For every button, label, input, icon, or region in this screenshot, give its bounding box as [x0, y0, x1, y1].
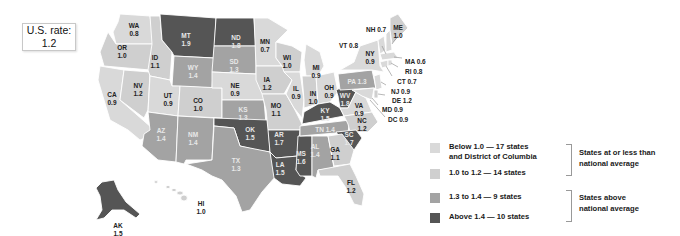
svg-text:MD 0.9: MD 0.9	[382, 106, 403, 113]
svg-text:WV1.8: WV1.8	[340, 92, 351, 107]
svg-text:MS1.6: MS1.6	[296, 150, 306, 165]
svg-text:KS1.3: KS1.3	[238, 106, 248, 121]
state-ma[interactable]	[380, 52, 398, 60]
svg-text:TX1.3: TX1.3	[231, 157, 240, 172]
svg-text:MI0.9: MI0.9	[311, 64, 320, 79]
svg-text:UT0.9: UT0.9	[163, 92, 172, 107]
svg-text:LA1.5: LA1.5	[275, 161, 284, 176]
legend-label: 1.3 to 1.4 — 9 states	[449, 192, 522, 202]
svg-text:NC1.2: NC1.2	[357, 117, 367, 132]
svg-text:MO1.1: MO1.1	[271, 102, 281, 117]
svg-text:MN0.7: MN0.7	[260, 38, 270, 53]
svg-text:HI1.0: HI1.0	[196, 200, 205, 215]
state-ak[interactable]	[96, 180, 140, 220]
svg-text:FL1.2: FL1.2	[346, 179, 355, 194]
swatch-above-1-4	[430, 213, 440, 223]
svg-text:SC1.7: SC1.7	[344, 131, 353, 146]
svg-text:MT1.9: MT1.9	[181, 32, 191, 47]
svg-text:OR1.0: OR1.0	[117, 44, 127, 59]
svg-text:AK1.5: AK1.5	[113, 222, 123, 236]
svg-text:KY1.5: KY1.5	[320, 107, 330, 122]
svg-text:NJ 0.9: NJ 0.9	[391, 88, 411, 95]
us-map: WA0.8 OR1.0 CA0.9 ID1.1 NV1.2 MT1.9 WY1.…	[0, 0, 680, 236]
legend-item-above-1-4: Above 1.4 — 10 states	[430, 212, 529, 223]
svg-text:AL1.4: AL1.4	[310, 143, 319, 158]
state-wa[interactable]	[113, 14, 154, 44]
svg-text:DC 0.9: DC 0.9	[388, 116, 409, 123]
bracket-above	[566, 190, 572, 222]
state-fl[interactable]	[318, 164, 364, 206]
svg-text:RI 0.8: RI 0.8	[405, 68, 423, 75]
svg-text:SD1.3: SD1.3	[229, 58, 238, 73]
svg-text:CA0.9: CA0.9	[107, 91, 117, 106]
svg-text:DE 1.2: DE 1.2	[392, 97, 412, 104]
svg-text:AZ1.4: AZ1.4	[156, 127, 165, 142]
svg-text:NM1.4: NM1.4	[188, 131, 198, 146]
legend-label: Below 1.0 — 17 states	[449, 142, 537, 152]
svg-text:GA1.1: GA1.1	[330, 146, 340, 161]
svg-text:NE0.9: NE0.9	[230, 82, 240, 97]
svg-text:OK1.5: OK1.5	[245, 126, 255, 141]
svg-text:WI1.0: WI1.0	[282, 54, 291, 69]
svg-text:NH 0.7: NH 0.7	[366, 26, 387, 33]
legend-item-1-3-to-1-4: 1.3 to 1.4 — 9 states	[430, 192, 522, 203]
swatch-1-3-to-1-4	[430, 193, 440, 203]
svg-text:MA 0.6: MA 0.6	[405, 58, 426, 65]
svg-text:PA 1.3: PA 1.3	[347, 78, 367, 85]
svg-text:ND1.8: ND1.8	[231, 34, 241, 49]
legend-item-1-0-to-1-2: 1.0 to 1.2 — 14 states	[430, 168, 526, 179]
legend-label: 1.0 to 1.2 — 14 states	[449, 168, 526, 178]
group-label-at-or-below: States at or less than national average	[579, 148, 655, 169]
svg-text:NY0.9: NY0.9	[365, 50, 375, 65]
svg-text:VA0.9: VA0.9	[354, 102, 363, 117]
state-de[interactable]	[374, 90, 378, 98]
state-hi[interactable]	[154, 181, 187, 201]
swatch-1-0-to-1-2	[430, 169, 440, 179]
legend-item-below-1-0: Below 1.0 — 17 states and District of Co…	[430, 142, 537, 162]
svg-text:OH0.9: OH0.9	[324, 84, 334, 99]
svg-text:ME1.0: ME1.0	[393, 24, 403, 39]
svg-text:VT 0.8: VT 0.8	[339, 42, 359, 49]
swatch-below-1-0	[430, 143, 440, 153]
legend-label: and District of Columbia	[449, 152, 537, 162]
legend-label: Above 1.4 — 10 states	[449, 212, 529, 222]
svg-text:CT 0.7: CT 0.7	[397, 78, 417, 85]
svg-text:CO1.0: CO1.0	[193, 97, 203, 112]
group-label-above: States above national average	[579, 193, 639, 214]
svg-text:WY1.4: WY1.4	[188, 64, 199, 79]
bracket-at-or-below	[566, 144, 572, 176]
svg-text:AR1.7: AR1.7	[274, 131, 284, 146]
svg-text:NV1.2: NV1.2	[133, 82, 143, 97]
svg-text:WA0.8: WA0.8	[129, 22, 140, 37]
svg-text:TN 1.4: TN 1.4	[315, 126, 335, 133]
